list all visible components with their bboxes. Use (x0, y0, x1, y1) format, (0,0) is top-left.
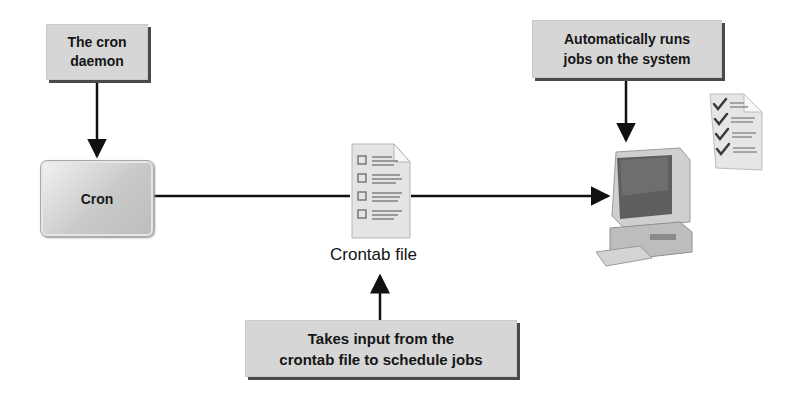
document-checklist-icon (352, 144, 410, 238)
cron-daemon-line1: The cron (67, 33, 126, 52)
takes-input-line2: crontab file to schedule jobs (279, 349, 482, 370)
takes-input-box: Takes input from the crontab file to sch… (245, 320, 517, 377)
cron-node: Cron (40, 160, 154, 237)
auto-runs-line1: Automatically runs (564, 29, 691, 49)
auto-runs-line2: jobs on the system (564, 49, 691, 69)
desktop-computer-icon (596, 148, 692, 266)
auto-runs-box: Automatically runs jobs on the system (532, 20, 722, 78)
cron-daemon-line2: daemon (67, 52, 126, 71)
cron-label: Cron (81, 191, 114, 207)
takes-input-line1: Takes input from the (279, 328, 482, 349)
checked-list-icon (710, 94, 762, 170)
crontab-file-label: Crontab file (330, 245, 417, 265)
cron-daemon-box: The cron daemon (46, 24, 148, 80)
